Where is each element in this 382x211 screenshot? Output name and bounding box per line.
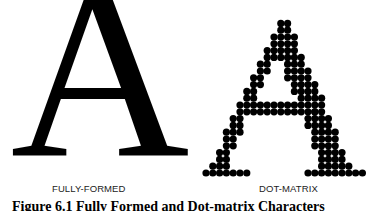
dot-matrix-label: DOT-MATRIX: [259, 183, 318, 194]
figure-caption: Figure 6.1 Fully Formed and Dot-matrix C…: [12, 199, 325, 211]
dot-matrix-letter-a: [0, 0, 382, 180]
fully-formed-label: FULLY-FORMED: [52, 183, 126, 194]
